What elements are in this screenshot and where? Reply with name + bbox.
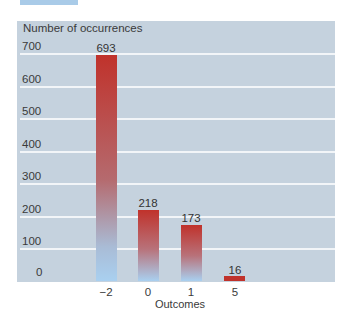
y-tick-400: 400 xyxy=(22,138,62,150)
bar-0 xyxy=(138,210,159,281)
gridline-100 xyxy=(20,248,335,250)
gridline-300 xyxy=(20,183,335,185)
x-tick-1: 1 xyxy=(171,286,211,298)
y-axis-title: Number of occurrences xyxy=(23,22,143,34)
y-tick-600: 600 xyxy=(22,73,62,85)
x-tick-5: 5 xyxy=(215,286,255,298)
bar-minus-2 xyxy=(96,55,117,281)
value-label-minus-2: 693 xyxy=(86,42,126,54)
value-label-0: 218 xyxy=(128,197,168,209)
y-tick-200: 200 xyxy=(22,203,62,215)
bar-5 xyxy=(224,276,245,281)
x-axis-title: Outcomes xyxy=(140,298,220,310)
gridline-400 xyxy=(20,151,335,153)
y-tick-0: 0 xyxy=(36,266,76,278)
gridline-500 xyxy=(20,118,335,120)
bar-1 xyxy=(181,225,202,281)
gridline-600 xyxy=(20,86,335,88)
y-tick-500: 500 xyxy=(22,105,62,117)
gridline-700 xyxy=(20,53,335,55)
y-tick-700: 700 xyxy=(22,40,62,52)
header-accent-bar xyxy=(20,0,78,5)
x-tick-0: 0 xyxy=(128,286,168,298)
value-label-1: 173 xyxy=(171,212,211,224)
value-label-5: 16 xyxy=(215,264,255,276)
y-tick-100: 100 xyxy=(22,235,62,247)
y-tick-300: 300 xyxy=(22,170,62,182)
x-tick-minus-2: −2 xyxy=(86,286,126,298)
